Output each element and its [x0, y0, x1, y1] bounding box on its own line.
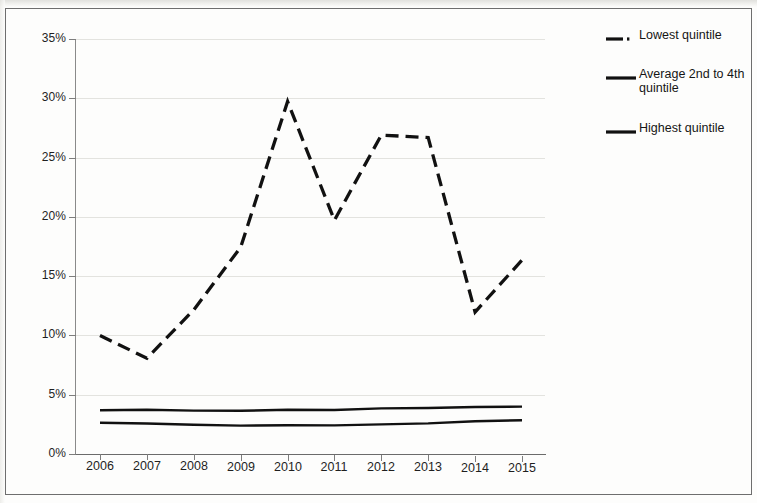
legend-label-average-2nd-to-4th-quintile: Average 2nd to 4th quintile	[639, 67, 746, 95]
series-line-highest-quintile	[100, 420, 522, 425]
series-line-lowest-quintile	[100, 102, 522, 359]
legend-swatch-solid-icon	[606, 73, 636, 83]
legend-swatch-solid-icon	[606, 127, 636, 137]
legend-label-highest-quintile: Highest quintile	[639, 121, 746, 135]
legend-label-lowest-quintile: Lowest quintile	[639, 28, 746, 42]
legend-item-highest-quintile[interactable]: Highest quintile	[606, 121, 746, 135]
chart-page: 0%5%10%15%20%25%30%35% 20062007200820092…	[0, 0, 757, 503]
legend-item-lowest-quintile[interactable]: Lowest quintile	[606, 28, 746, 42]
series-line-average-2nd-to-4th-quintile	[100, 407, 522, 411]
chart-legend: Lowest quintile Average 2nd to 4th quint…	[606, 28, 746, 161]
legend-item-average-2nd-to-4th-quintile[interactable]: Average 2nd to 4th quintile	[606, 67, 746, 95]
legend-swatch-dashed-icon	[606, 34, 636, 44]
